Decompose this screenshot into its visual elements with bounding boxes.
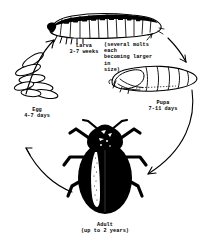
arrow-larva-to-pupa [168, 38, 186, 62]
adult-beetle-illustration [64, 120, 146, 214]
label-egg: Egg 4-7 days [14, 107, 60, 119]
label-larva-molts-note: (several molts each becoming larger in s… [104, 42, 160, 73]
egg-illustration [13, 50, 58, 100]
larva-illustration [47, 14, 164, 44]
arrow-note-to-larva [147, 34, 152, 40]
label-pupa: Pupa 7-11 days [140, 100, 186, 112]
label-larva: Larva 3-7 weeks [62, 43, 106, 55]
arrow-adult-to-egg [26, 148, 72, 192]
life-cycle-figure: Larva 3-7 weeks (several molts each beco… [0, 0, 211, 245]
label-adult: Adult (up to 2 years) [58, 222, 152, 234]
life-cycle-diagram [0, 0, 211, 245]
